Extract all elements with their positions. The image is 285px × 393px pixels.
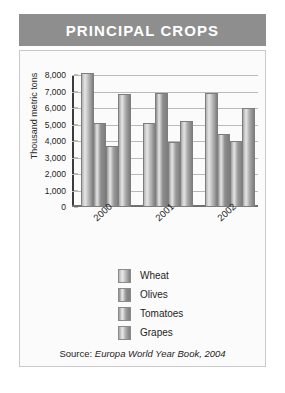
source-prefix: Source: (59, 348, 92, 359)
legend-swatch-wheat (118, 269, 131, 283)
legend-item-tomatoes[interactable]: Tomatoes (118, 304, 183, 323)
chart-legend: WheatOlivesTomatoesGrapes (118, 266, 183, 342)
y-axis-tick-label: 7,000 (45, 87, 66, 97)
chart-panel: Thousand metric tons 8,0007,0006,0005,00… (19, 50, 266, 367)
gridline (72, 75, 258, 76)
bar-olives-2002 (217, 134, 230, 207)
y-axis-tick-label: 8,000 (45, 70, 66, 80)
bar-grapes-2001 (180, 121, 193, 207)
bars-container (72, 75, 258, 207)
legend-swatch-tomatoes (118, 307, 131, 321)
x-axis-labels: 200020012002 (72, 211, 258, 245)
y-axis-tick-label: 2,000 (45, 169, 66, 179)
y-axis-tick-label: 0 (61, 202, 66, 212)
bar-wheat-2000 (81, 73, 94, 207)
legend-label: Grapes (140, 327, 173, 338)
bar-wheat-2001 (143, 123, 156, 208)
y-axis-tick-label: 6,000 (45, 103, 66, 113)
bar-grapes-2000 (118, 94, 131, 207)
bar-grapes-2002 (242, 108, 255, 207)
y-axis-tick-label: 1,000 (45, 186, 66, 196)
bar-tomatoes-2000 (106, 146, 119, 207)
title-banner: PRINCIPAL CROPS (19, 14, 266, 46)
y-axis-tick-label: 3,000 (45, 153, 66, 163)
bar-tomatoes-2001 (168, 142, 181, 207)
chart-card: PRINCIPAL CROPS Thousand metric tons 8,0… (19, 14, 266, 367)
legend-item-olives[interactable]: Olives (118, 285, 183, 304)
bar-olives-2000 (93, 123, 106, 208)
legend-label: Wheat (140, 270, 169, 281)
bar-wheat-2002 (205, 93, 218, 207)
bar-olives-2001 (155, 93, 168, 207)
legend-label: Tomatoes (140, 308, 183, 319)
bar-tomatoes-2002 (230, 141, 243, 207)
y-axis-tick-label: 5,000 (45, 120, 66, 130)
legend-item-wheat[interactable]: Wheat (118, 266, 183, 285)
legend-label: Olives (140, 289, 168, 300)
page-title: PRINCIPAL CROPS (66, 22, 219, 39)
y-axis-ticks: 8,0007,0006,0005,0004,0003,0002,0001,000… (26, 75, 66, 207)
y-axis-tick-label: 4,000 (45, 136, 66, 146)
legend-item-grapes[interactable]: Grapes (118, 323, 183, 342)
source-text: Europa World Year Book, 2004 (95, 348, 226, 359)
legend-swatch-grapes (118, 326, 131, 340)
legend-swatch-olives (118, 288, 131, 302)
plot-area: Thousand metric tons 8,0007,0006,0005,00… (20, 51, 265, 236)
source-note: Source: Europa World Year Book, 2004 (20, 348, 265, 359)
